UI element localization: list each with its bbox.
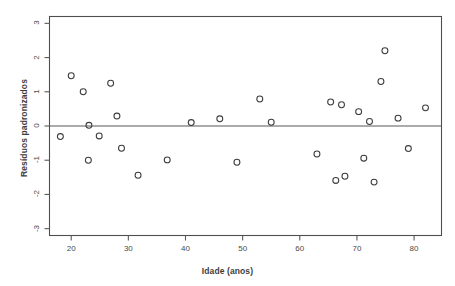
y-tick-label: 3: [31, 13, 40, 33]
data-point: [378, 79, 384, 85]
data-points-layer: [57, 48, 428, 185]
x-axis-title: Idade (anos): [0, 266, 455, 276]
scatter-plot-figure: Idade (anos) Resíduos padronizados 20304…: [0, 0, 455, 286]
data-point: [382, 48, 388, 54]
x-tick-label: 60: [287, 244, 313, 253]
y-axis-ticks: [45, 23, 50, 228]
data-point: [328, 99, 334, 105]
x-tick-label: 70: [344, 244, 370, 253]
x-tick-label: 50: [230, 244, 256, 253]
data-point: [68, 73, 74, 79]
data-point: [367, 119, 373, 125]
data-point: [342, 173, 348, 179]
data-point: [80, 89, 86, 95]
data-point: [361, 155, 367, 161]
data-point: [333, 177, 339, 183]
y-tick-label: 0: [31, 116, 40, 136]
y-tick-label: -3: [31, 218, 40, 238]
x-tick-label: 30: [115, 244, 141, 253]
data-point: [356, 109, 362, 115]
y-tick-label: 1: [31, 81, 40, 101]
data-point: [423, 105, 429, 111]
y-tick-label: -1: [31, 150, 40, 170]
data-point: [119, 145, 125, 151]
data-point: [268, 119, 274, 125]
x-tick-label: 20: [58, 244, 84, 253]
data-point: [96, 133, 102, 139]
data-point: [257, 96, 263, 102]
x-tick-label: 80: [401, 244, 427, 253]
data-point: [164, 157, 170, 163]
x-tick-label: 40: [173, 244, 199, 253]
data-point: [108, 80, 114, 86]
y-axis-title: Resíduos padronizados: [19, 58, 29, 198]
y-tick-label: -2: [31, 184, 40, 204]
x-axis-ticks: [71, 236, 414, 241]
data-point: [339, 102, 345, 108]
y-tick-label: 2: [31, 47, 40, 67]
data-point: [405, 146, 411, 152]
data-point: [57, 134, 63, 140]
data-point: [85, 157, 91, 163]
data-point: [135, 172, 141, 178]
data-point: [234, 159, 240, 165]
data-point: [188, 120, 194, 126]
data-point: [371, 179, 377, 185]
data-point: [86, 122, 92, 128]
data-point: [114, 113, 120, 119]
data-point: [314, 151, 320, 157]
data-point: [395, 115, 401, 121]
data-point: [217, 116, 223, 122]
